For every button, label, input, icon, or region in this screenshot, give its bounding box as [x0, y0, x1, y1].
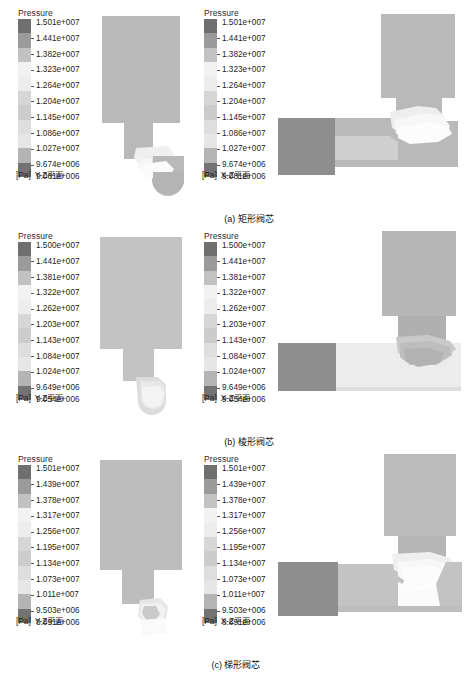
tick-label: 1.143e+007: [217, 337, 265, 345]
colorbar-legend-b-xz: Pressure 1.500e+007 1.441e+007 1.381e+00…: [200, 231, 284, 400]
tick-label: 1.501e+007: [217, 465, 265, 473]
tick-label: 1.262e+007: [217, 305, 265, 313]
unit-label: [Pa]: [202, 170, 217, 180]
contour-canvas-c-yz: [96, 454, 214, 654]
plane-label: Y-Z平面: [35, 616, 64, 626]
plane-label: X-Z平面: [221, 393, 250, 403]
plane-label: X-Z平面: [221, 616, 250, 626]
legend-title: Pressure: [18, 8, 98, 18]
panel-c-xz: Pressure 1.501e+007 1.439e+007 1.378e+00…: [200, 454, 472, 654]
tick-label: 9.674e+006: [217, 161, 265, 169]
legend-footer: [Pa]X-Z平面: [202, 393, 250, 403]
colorbar-legend-c-xz: Pressure 1.501e+007 1.439e+007 1.378e+00…: [200, 454, 284, 623]
panel-a-yz: Pressure 1.501e+007 1.441e+007 1.382e+00…: [14, 8, 214, 208]
tick-label: 1.256e+007: [31, 528, 79, 536]
contour-canvas-b-xz: [278, 231, 472, 431]
tick-label: 1.381e+007: [31, 274, 79, 282]
unit-label: [Pa]: [16, 616, 31, 626]
tick-label: 9.674e+006: [31, 161, 79, 169]
colorbar-strip: [18, 242, 31, 400]
contour-canvas-c-xz: [278, 454, 472, 654]
tick-label: 1.262e+007: [31, 305, 79, 313]
colorbar-tick-labels: 1.501e+007 1.439e+007 1.378e+007 1.317e+…: [217, 465, 285, 623]
contour-canvas-a-xz: [278, 8, 472, 208]
tick-label: 1.381e+007: [217, 274, 265, 282]
legend-title: Pressure: [18, 231, 98, 241]
plane-label: Y-Z平面: [35, 393, 64, 403]
tick-label: 1.024e+007: [217, 368, 265, 376]
caption-text: (a) 矩形阀芯: [198, 214, 274, 224]
colorbar-strip: [204, 19, 217, 177]
colorbar-strip: [204, 465, 217, 623]
legend-footer: [Pa]Y-Z平面: [16, 170, 63, 180]
figure-row-b: Pressure 1.500e+007 1.441e+007 1.381e+00…: [0, 231, 472, 453]
tick-label: 1.203e+007: [217, 321, 265, 329]
legend-footer: [Pa]Y-Z平面: [16, 616, 63, 626]
tick-label: 1.084e+007: [31, 353, 79, 361]
panel-c-yz: Pressure 1.501e+007 1.439e+007 1.378e+00…: [14, 454, 214, 654]
tick-label: 1.086e+007: [217, 130, 265, 138]
colorbar-tick-labels: 1.501e+007 1.439e+007 1.378e+007 1.317e+…: [31, 465, 99, 623]
tick-label: 1.501e+007: [31, 465, 79, 473]
tick-label: 1.501e+007: [217, 19, 265, 27]
tick-label: 1.382e+007: [31, 51, 79, 59]
row-caption-b: (b) 棱形阀芯: [0, 437, 472, 448]
figure-row-c: Pressure 1.501e+007 1.439e+007 1.378e+00…: [0, 454, 472, 676]
tick-label: 1.027e+007: [217, 145, 265, 153]
caption-text: (b) 棱形阀芯: [198, 437, 274, 447]
tick-label: 1.501e+007: [31, 19, 79, 27]
tick-label: 1.264e+007: [31, 82, 79, 90]
tick-label: 1.256e+007: [217, 528, 265, 536]
unit-label: [Pa]: [202, 616, 217, 626]
panel-b-yz: Pressure 1.500e+007 1.441e+007 1.381e+00…: [14, 231, 214, 431]
tick-label: 1.011e+007: [31, 591, 79, 599]
tick-label: 9.503e+006: [217, 607, 265, 615]
colorbar-tick-labels: 1.501e+007 1.441e+007 1.382e+007 1.323e+…: [217, 19, 285, 177]
tick-label: 1.323e+007: [217, 66, 265, 74]
tick-label: 9.503e+006: [31, 607, 79, 615]
tick-label: 1.086e+007: [31, 130, 79, 138]
legend-footer: [Pa]X-Z平面: [202, 616, 250, 626]
tick-label: 1.143e+007: [31, 337, 79, 345]
tick-label: 1.322e+007: [217, 289, 265, 297]
colorbar-legend-c-yz: Pressure 1.501e+007 1.439e+007 1.378e+00…: [14, 454, 98, 623]
colorbar-tick-labels: 1.500e+007 1.441e+007 1.381e+007 1.322e+…: [217, 242, 285, 400]
row-caption-a: (a) 矩形阀芯: [0, 214, 472, 225]
colorbar-tick-labels: 1.500e+007 1.441e+007 1.381e+007 1.322e+…: [31, 242, 99, 400]
tick-label: 1.441e+007: [217, 258, 265, 266]
tick-label: 1.500e+007: [31, 242, 79, 250]
row-caption-c: (c) 梯形阀芯: [0, 660, 472, 671]
tick-label: 1.134e+007: [31, 560, 79, 568]
tick-label: 1.195e+007: [217, 544, 265, 552]
tick-label: 1.378e+007: [217, 497, 265, 505]
legend-footer: [Pa]X-Z平面: [202, 170, 250, 180]
tick-label: 1.323e+007: [31, 66, 79, 74]
plane-label: X-Z平面: [221, 170, 250, 180]
tick-label: 9.649e+006: [217, 384, 265, 392]
tick-label: 1.084e+007: [217, 353, 265, 361]
tick-label: 1.500e+007: [217, 242, 265, 250]
tick-label: 1.317e+007: [217, 512, 265, 520]
tick-label: 1.027e+007: [31, 145, 79, 153]
tick-label: 1.204e+007: [217, 98, 265, 106]
tick-label: 1.441e+007: [217, 35, 265, 43]
unit-label: [Pa]: [202, 393, 217, 403]
tick-label: 9.649e+006: [31, 384, 79, 392]
panel-b-xz: Pressure 1.500e+007 1.441e+007 1.381e+00…: [200, 231, 472, 431]
tick-label: 1.145e+007: [217, 114, 265, 122]
legend-footer: [Pa]Y-Z平面: [16, 393, 63, 403]
tick-label: 1.203e+007: [31, 321, 79, 329]
tick-label: 1.204e+007: [31, 98, 79, 106]
tick-label: 1.441e+007: [31, 258, 79, 266]
caption-text: (c) 梯形阀芯: [212, 660, 261, 670]
legend-title: Pressure: [204, 454, 284, 464]
tick-label: 1.195e+007: [31, 544, 79, 552]
tick-label: 1.317e+007: [31, 512, 79, 520]
tick-label: 1.382e+007: [217, 51, 265, 59]
colorbar-legend-a-yz: Pressure 1.501e+007 1.441e+007 1.382e+00…: [14, 8, 98, 177]
tick-label: 1.439e+007: [217, 481, 265, 489]
legend-title: Pressure: [18, 454, 98, 464]
unit-label: [Pa]: [16, 393, 31, 403]
colorbar-tick-labels: 1.501e+007 1.441e+007 1.382e+007 1.323e+…: [31, 19, 99, 177]
colorbar-legend-a-xz: Pressure 1.501e+007 1.441e+007 1.382e+00…: [200, 8, 284, 177]
